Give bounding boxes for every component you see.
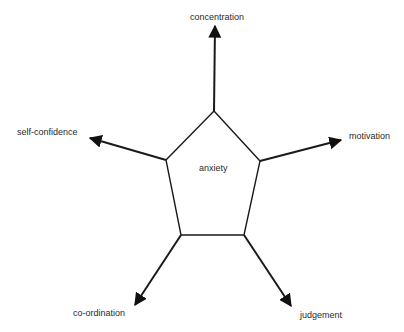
arrow-co-ordination [135,235,181,305]
label-self-confidence: self-confidence [17,128,78,137]
label-co-ordination: co-ordination [73,309,125,318]
arrow-motivation [260,140,341,161]
label-judgement: judgement [300,311,342,320]
label-concentration: concentration [190,13,244,22]
anxiety-pentagon [166,111,260,235]
label-anxiety: anxiety [199,164,228,173]
arrow-judgement [244,235,291,306]
arrow-concentration [214,26,215,111]
label-motivation: motivation [349,132,390,141]
arrow-self-confidence [90,138,166,160]
